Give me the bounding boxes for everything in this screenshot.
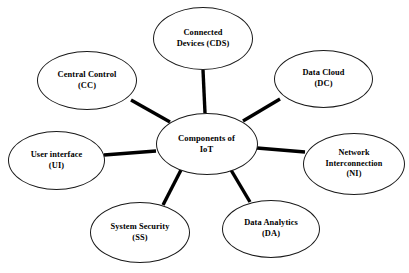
- node-central-control: Central Control(CC): [37, 51, 137, 110]
- node-central-control-line-1: Central Control: [58, 70, 117, 81]
- node-user-interface: User interface(UI): [8, 131, 105, 190]
- node-components-of-iot-line-2: IoT: [200, 144, 214, 155]
- edge-center-to-system-security: [163, 170, 181, 205]
- edge-center-to-connected-devices: [203, 70, 205, 113]
- node-system-security-line-1: System Security: [111, 222, 170, 233]
- node-data-cloud: Data Cloud(DC): [274, 50, 373, 108]
- node-connected-devices-line-2: Devices (CDS): [177, 39, 230, 50]
- edge-center-to-user-interface: [104, 151, 156, 155]
- node-connected-devices-line-1: Connected: [183, 28, 222, 39]
- edge-center-to-data-analytics: [231, 170, 250, 202]
- node-components-of-iot-line-1: Components of: [178, 133, 235, 144]
- node-system-security: System Security(SS): [90, 202, 190, 263]
- node-network-interconnection-line-1: Network: [338, 148, 369, 159]
- edge-center-to-network-interconnection: [257, 148, 305, 152]
- node-components-of-iot: Components ofIoT: [156, 113, 258, 175]
- node-user-interface-line-2: (UI): [49, 161, 64, 172]
- node-system-security-line-2: (SS): [132, 233, 147, 244]
- node-network-interconnection-line-3: (NI): [347, 169, 362, 180]
- edge-center-to-data-cloud: [243, 99, 280, 121]
- node-data-analytics-line-2: (DA): [262, 229, 280, 240]
- node-data-analytics: Data Analytics(DA): [222, 200, 320, 258]
- node-connected-devices: ConnectedDevices (CDS): [153, 7, 253, 70]
- node-central-control-line-2: (CC): [78, 81, 96, 92]
- node-user-interface-line-1: User interface: [31, 150, 83, 161]
- edge-center-to-central-control: [131, 100, 170, 122]
- node-network-interconnection-line-2: Interconnection: [326, 159, 383, 170]
- node-data-cloud-line-2: (DC): [314, 79, 332, 90]
- node-data-analytics-line-1: Data Analytics: [244, 218, 298, 229]
- node-data-cloud-line-1: Data Cloud: [302, 68, 344, 79]
- node-network-interconnection: NetworkInterconnection(NI): [303, 133, 405, 195]
- iot-components-diagram: Components ofIoTConnectedDevices (CDS)Da…: [0, 0, 409, 273]
